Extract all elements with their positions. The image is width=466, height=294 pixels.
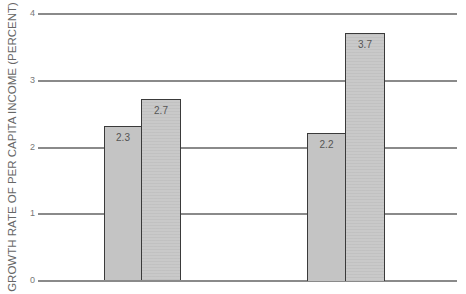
gridline-2 <box>38 147 457 149</box>
y-tick-0: 0 <box>30 275 35 285</box>
bar-group1-series-b: 2.7 <box>141 99 181 280</box>
y-axis-label-container: GROWTH RATE OF PER CAPITA INCOME (PERCEN… <box>0 0 24 294</box>
gridline-1 <box>38 213 457 215</box>
bar-value-label: 2.3 <box>105 132 141 143</box>
y-tick-3: 3 <box>30 75 35 85</box>
bar-value-label: 2.7 <box>142 105 180 116</box>
y-axis-label: GROWTH RATE OF PER CAPITA INCOME (PERCEN… <box>6 2 18 292</box>
bar-group1-series-a: 2.3 <box>104 126 142 280</box>
bar-value-label: 2.2 <box>308 139 345 150</box>
bar-value-label: 3.7 <box>346 39 384 50</box>
baseline <box>38 280 457 282</box>
gridline-3 <box>38 80 457 82</box>
bar-group2-series-b: 3.7 <box>345 33 385 281</box>
gridline-4 <box>38 13 457 15</box>
bar-group2-series-a: 2.2 <box>307 133 346 281</box>
y-tick-2: 2 <box>30 142 35 152</box>
y-tick-1: 1 <box>30 208 35 218</box>
y-tick-4: 4 <box>30 8 35 18</box>
